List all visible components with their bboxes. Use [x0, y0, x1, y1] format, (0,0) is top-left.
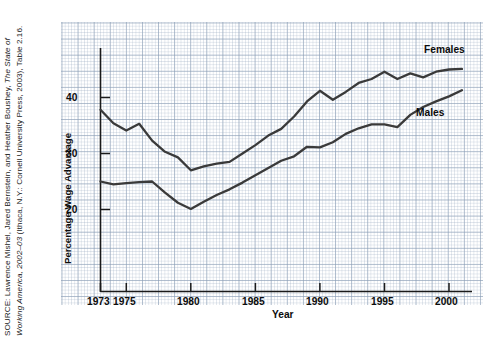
series-label-males: Males: [416, 107, 444, 118]
x-tick-label-1985: 1985: [242, 296, 265, 307]
x-axis-title: Year: [272, 309, 294, 320]
x-tick-label-1973: 1973: [87, 296, 110, 307]
y-tick-label-40: 40: [66, 92, 77, 103]
x-tick-label-1990: 1990: [306, 296, 329, 307]
figure-container: 40 30 20 Percentage Wage Advantage 1973 …: [0, 0, 489, 342]
data-line-males: [101, 90, 462, 209]
x-tick-label-1975: 1975: [113, 296, 136, 307]
x-axis-ticks: [101, 283, 450, 292]
x-tick-label-2000: 2000: [435, 296, 458, 307]
series-label-females: Females: [424, 44, 465, 55]
chart-canvas: [0, 0, 489, 342]
x-tick-label-1980: 1980: [177, 296, 200, 307]
y-axis-title: Percentage Wage Advantage: [62, 133, 73, 264]
x-tick-label-1995: 1995: [371, 296, 394, 307]
data-line-females: [101, 69, 462, 170]
